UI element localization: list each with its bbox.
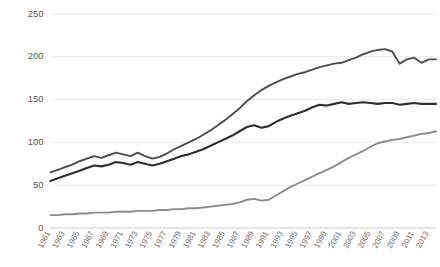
line-chart: 050100150200250 196119631965196719691971… <box>0 0 440 267</box>
x-axis-tick-label: 1971 <box>109 229 126 249</box>
gridlines-group <box>51 14 437 228</box>
y-axis-tick-label: 100 <box>28 136 44 147</box>
x-axis-tick-label: 2003 <box>341 229 358 249</box>
x-axis-tick-label: 1995 <box>283 229 300 249</box>
x-axis-tick-label: 2013 <box>414 229 431 249</box>
x-axis-tick-label: 2009 <box>385 229 402 249</box>
x-axis-tick-label: 2007 <box>371 229 388 249</box>
x-axis-tick-label: 1991 <box>254 229 271 249</box>
x-axis-tick-label: 2005 <box>356 229 373 249</box>
series-group <box>51 49 437 215</box>
series-line-middle-series <box>51 102 437 181</box>
y-axis-tick-label: 50 <box>33 179 44 190</box>
x-axis-tick-label: 1983 <box>196 229 213 249</box>
x-axis-tick-label: 1993 <box>269 229 286 249</box>
y-axis-tick-label: 200 <box>28 50 44 61</box>
y-axis-tick-label: 250 <box>28 8 44 19</box>
series-line-lower-series <box>51 131 437 215</box>
x-axis-tick-label: 1975 <box>138 229 155 249</box>
x-axis-tick-label: 1989 <box>240 229 257 249</box>
x-axis-tick-label: 1965 <box>65 229 82 249</box>
y-axis-tick-label: 150 <box>28 93 44 104</box>
x-axis-tick-label: 1979 <box>167 229 184 249</box>
x-axis-tick-label: 1967 <box>80 229 97 249</box>
x-axis-tick-label: 1997 <box>298 229 315 249</box>
x-axis-tick-label: 1987 <box>225 229 242 249</box>
x-axis-tick-label: 2001 <box>327 229 344 249</box>
x-axis-tick-label: 1999 <box>312 229 329 249</box>
x-axis-tick-label: 1985 <box>211 229 228 249</box>
series-line-upper-series <box>51 49 437 172</box>
x-axis-tick-label: 1981 <box>181 229 198 249</box>
x-axis-tick-label: 1969 <box>94 229 111 249</box>
x-axis-tick-label: 1977 <box>152 229 169 249</box>
x-axis-tick-label: 1963 <box>51 229 68 249</box>
x-axis-tick-label: 1973 <box>123 229 140 249</box>
y-axis-labels-group: 050100150200250 <box>28 8 44 233</box>
chart-canvas: 050100150200250 196119631965196719691971… <box>0 0 440 267</box>
x-axis-labels-group: 1961196319651967196919711973197519771979… <box>36 229 431 249</box>
